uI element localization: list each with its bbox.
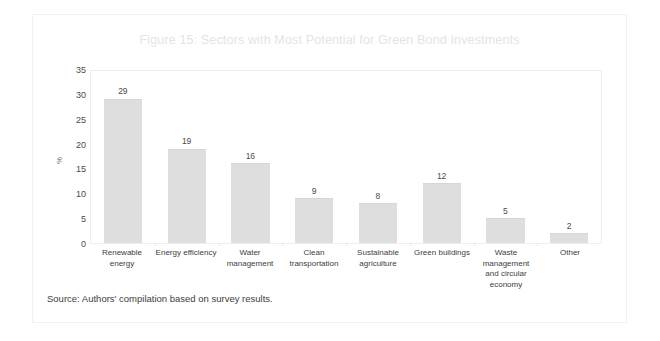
bar-value-label: 2	[567, 222, 572, 231]
figure-title: Figure 15: Sectors with Most Potential f…	[33, 33, 626, 47]
x-category-label: Waste management and circular economy	[474, 248, 538, 290]
bar-item[interactable]: 12	[410, 71, 474, 243]
axis-tick	[282, 243, 283, 246]
bar-item[interactable]: 8	[346, 71, 410, 243]
bar-value-label: 8	[376, 192, 381, 201]
bar-item[interactable]: 16	[219, 71, 283, 243]
bar-item[interactable]: 19	[155, 71, 219, 243]
bar-rect[interactable]	[231, 163, 269, 243]
plot-area: 291916981252	[90, 70, 602, 244]
bar-rect[interactable]	[168, 149, 206, 243]
axis-tick	[410, 243, 411, 246]
y-tick-label: 10	[56, 190, 86, 199]
x-category-label: Green buildings	[410, 248, 474, 259]
bar-rect[interactable]	[486, 218, 524, 243]
x-category-label: Sustainable agriculture	[346, 248, 410, 269]
y-tick-label: 5	[56, 215, 86, 224]
x-category-label: Clean transportation	[282, 248, 346, 269]
bar-rect[interactable]	[295, 198, 333, 243]
source-note: Source: Authors' compilation based on su…	[47, 293, 273, 304]
bar-item[interactable]: 29	[91, 71, 155, 243]
y-axis-title: %	[55, 157, 64, 164]
y-tick-label: 30	[56, 90, 86, 99]
y-tick-label: 25	[56, 115, 86, 124]
x-category-label: Energy efficiency	[154, 248, 218, 259]
bar-value-label: 16	[246, 152, 255, 161]
bar-rect[interactable]	[104, 99, 142, 243]
x-axis: Renewable energyEnergy efficiencyWater m…	[90, 248, 602, 290]
bar-item[interactable]: 9	[282, 71, 346, 243]
figure-container: Figure 15: Sectors with Most Potential f…	[32, 14, 627, 323]
bar-item[interactable]: 5	[474, 71, 538, 243]
axis-tick	[537, 243, 538, 246]
bar-rect[interactable]	[423, 183, 461, 243]
y-tick-label: 15	[56, 165, 86, 174]
bar-rect[interactable]	[550, 233, 588, 243]
axis-tick	[155, 243, 156, 246]
y-tick-label: 0	[56, 240, 86, 249]
x-category-label: Other	[538, 248, 602, 259]
bar-value-label: 5	[503, 207, 508, 216]
axis-tick	[346, 243, 347, 246]
x-category-label: Water management	[218, 248, 282, 269]
bar-value-label: 19	[182, 137, 191, 146]
bar-rect[interactable]	[359, 203, 397, 243]
bar-value-label: 29	[118, 87, 127, 96]
axis-tick	[219, 243, 220, 246]
axis-tick	[474, 243, 475, 246]
y-tick-label: 35	[56, 66, 86, 75]
bar-item[interactable]: 2	[537, 71, 601, 243]
x-category-label: Renewable energy	[90, 248, 154, 269]
y-tick-label: 20	[56, 140, 86, 149]
bar-series: 291916981252	[91, 71, 601, 243]
bar-value-label: 12	[437, 172, 446, 181]
bar-value-label: 9	[312, 187, 317, 196]
